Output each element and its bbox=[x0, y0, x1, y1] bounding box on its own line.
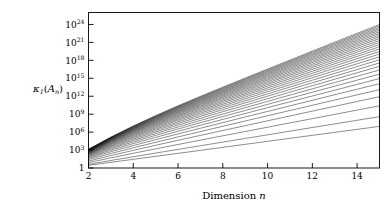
x-tick-label: 8 bbox=[220, 171, 226, 181]
x-axis-title: Dimension n bbox=[202, 190, 266, 201]
x-tick-label: 10 bbox=[262, 171, 274, 181]
y-tick-label: 1 bbox=[79, 163, 85, 173]
chart-background bbox=[0, 0, 391, 212]
x-tick-label: 6 bbox=[175, 171, 181, 181]
x-tick-label: 4 bbox=[130, 171, 136, 181]
chart-svg: 110310610910121015101810211024 246810121… bbox=[0, 0, 391, 212]
x-tick-label: 14 bbox=[351, 171, 363, 181]
x-tick-label: 2 bbox=[86, 171, 92, 181]
chart-figure: 110310610910121015101810211024 246810121… bbox=[0, 0, 391, 212]
x-tick-label: 12 bbox=[307, 171, 318, 181]
